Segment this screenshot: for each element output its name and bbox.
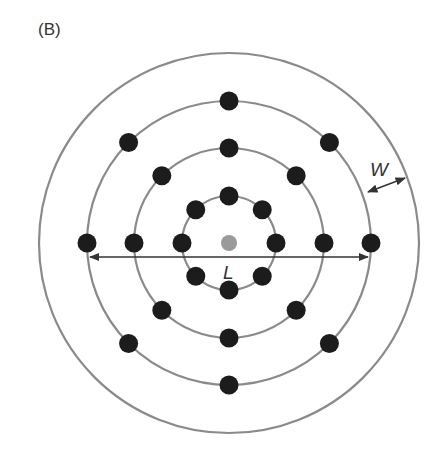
particle-dot <box>186 267 205 286</box>
particle-dot <box>220 139 239 158</box>
particle-dot <box>220 187 239 206</box>
width-arrow <box>368 178 405 192</box>
particle-dot <box>173 234 192 253</box>
particle-dot <box>287 301 306 320</box>
width-label: W <box>370 159 390 180</box>
particle-dot <box>220 329 239 348</box>
diagram-canvas: LW <box>0 0 441 459</box>
particle-dot <box>78 234 97 253</box>
particle-dot <box>119 133 138 152</box>
particle-dot <box>320 133 339 152</box>
particle-dot <box>253 267 272 286</box>
particle-dot <box>220 92 239 111</box>
particle-dot <box>152 301 171 320</box>
particle-dot <box>320 334 339 353</box>
particle-dot <box>125 234 144 253</box>
particle-dot <box>152 166 171 185</box>
particle-dot <box>362 234 381 253</box>
concentric-ring-diagram: (B) LW <box>0 0 441 459</box>
particle-dot <box>220 281 239 300</box>
particle-dot <box>253 200 272 219</box>
particle-dot <box>267 234 286 253</box>
particle-dot <box>220 376 239 395</box>
length-label: L <box>223 262 234 283</box>
particle-dot <box>119 334 138 353</box>
particle-dot <box>315 234 334 253</box>
particle-dot <box>287 166 306 185</box>
center-dot <box>221 235 237 251</box>
particle-dot <box>186 200 205 219</box>
